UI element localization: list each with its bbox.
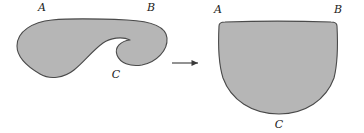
- right-label-A: A: [213, 3, 222, 16]
- figure-container: A B C A B C: [0, 0, 364, 133]
- left-label-C: C: [112, 68, 121, 81]
- arrow-head-icon: [192, 60, 199, 66]
- right-figure-group: A B C: [213, 3, 342, 131]
- transformation-arrow-group: [172, 60, 198, 66]
- left-label-A: A: [37, 1, 46, 14]
- left-label-B: B: [146, 1, 155, 14]
- right-label-B: B: [333, 3, 342, 16]
- topology-figure: A B C A B C: [0, 0, 364, 133]
- right-label-C: C: [275, 118, 284, 131]
- left-figure-group: A B C: [17, 1, 167, 81]
- filled-disk-blob-shape: [218, 21, 337, 114]
- notched-blob-shape: [17, 19, 167, 78]
